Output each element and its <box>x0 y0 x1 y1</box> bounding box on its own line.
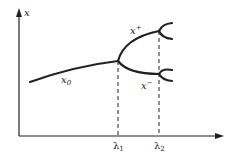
bifurcation-diagram: x x0 x+ x− λ1 λ2 <box>0 0 233 154</box>
tick-lambda1: λ1 <box>113 140 124 153</box>
y-axis-label: x <box>24 7 30 18</box>
x-axis-arrow-icon <box>215 133 224 139</box>
lower-fork-bottom <box>159 74 172 81</box>
diagram-svg: x x0 x+ x− λ1 λ2 <box>0 0 233 154</box>
label-x-plus: x+ <box>130 24 142 36</box>
y-axis-arrow-icon <box>16 8 22 17</box>
tick-lambda2: λ2 <box>154 140 165 153</box>
upper-fork-top <box>159 23 172 31</box>
upper-branch-x-plus <box>118 31 159 61</box>
label-x-minus: x− <box>141 79 153 91</box>
lower-branch-x-minus <box>118 61 159 74</box>
lower-fork-top <box>159 70 172 75</box>
label-x0: x0 <box>61 74 72 87</box>
stable-branch-x0 <box>30 61 118 82</box>
upper-fork-bottom <box>159 31 172 39</box>
